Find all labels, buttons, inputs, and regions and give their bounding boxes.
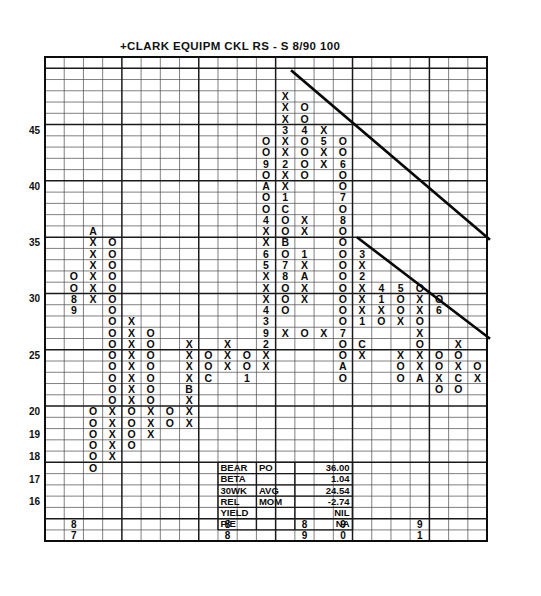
plot-mark-O: O <box>396 293 404 305</box>
plot-mark-O: O <box>300 158 308 170</box>
plot-mark-X: X <box>186 372 193 384</box>
year-digit-bottom: 1 <box>417 530 423 541</box>
plot-mark-X: X <box>128 349 135 361</box>
plot-mark-X: X <box>147 405 154 417</box>
plot-mark-X: X <box>282 169 289 181</box>
plot-mark-O: O <box>204 349 212 361</box>
plot-mark-4: 4 <box>263 304 269 316</box>
y-axis-tick-30: 30 <box>29 293 41 304</box>
plot-mark-X: X <box>109 439 116 451</box>
plot-mark-O: O <box>147 394 155 406</box>
plot-mark-X: X <box>301 214 308 226</box>
plot-mark-X: X <box>128 372 135 384</box>
plot-mark-O: O <box>281 293 289 305</box>
plot-mark-X: X <box>224 360 231 372</box>
plot-mark-X: X <box>282 135 289 147</box>
plot-mark-X: X <box>147 428 154 440</box>
plot-mark-X: X <box>416 304 423 316</box>
plot-mark-O: O <box>262 191 270 203</box>
plot-mark-O: O <box>108 360 116 372</box>
plot-mark-X: X <box>263 236 270 248</box>
y-axis-tick-18: 18 <box>29 451 41 462</box>
plot-mark-O: O <box>300 327 308 339</box>
plot-mark-O: O <box>243 360 251 372</box>
plot-mark-O: O <box>339 270 347 282</box>
plot-mark-6: 6 <box>263 248 269 260</box>
plot-mark-O: O <box>108 349 116 361</box>
plot-mark-O: O <box>473 360 481 372</box>
plot-mark-O: O <box>166 405 174 417</box>
plot-mark-1: 1 <box>244 372 250 384</box>
plot-mark-O: O <box>339 236 347 248</box>
plot-mark-X: X <box>359 282 366 294</box>
y-axis-tick-45: 45 <box>29 125 41 136</box>
plot-mark-O: O <box>300 135 308 147</box>
plot-mark-O: O <box>89 439 97 451</box>
plot-mark-A: A <box>301 270 309 282</box>
plot-mark-X: X <box>128 315 135 327</box>
plot-mark-X: X <box>282 146 289 158</box>
plot-mark-5: 5 <box>263 259 269 271</box>
plot-mark-X: X <box>301 293 308 305</box>
info-mid-mom: MOM <box>259 496 282 507</box>
plot-mark-X: X <box>90 270 97 282</box>
plot-mark-9: 9 <box>71 304 77 316</box>
year-digit-top: 8 <box>71 519 77 530</box>
plot-mark-X: X <box>359 259 366 271</box>
plot-mark-6: 6 <box>436 304 442 316</box>
plot-mark-B: B <box>185 383 193 395</box>
plot-mark-O: O <box>281 304 289 316</box>
plot-mark-A: A <box>339 360 347 372</box>
plot-mark-8: 8 <box>340 214 346 226</box>
plot-mark-O: O <box>127 439 135 451</box>
plot-mark-X: X <box>320 124 327 136</box>
plot-mark-5: 5 <box>321 135 327 147</box>
plot-mark-X: X <box>320 146 327 158</box>
plot-mark-2: 2 <box>359 270 365 282</box>
plot-mark-O: O <box>108 315 116 327</box>
plot-mark-O: O <box>108 293 116 305</box>
plot-mark-O: O <box>108 248 116 260</box>
plot-mark-O: O <box>262 135 270 147</box>
plot-mark-X: X <box>416 349 423 361</box>
plot-mark-X: X <box>224 338 231 350</box>
plot-mark-O: O <box>339 315 347 327</box>
plot-mark-X: X <box>263 360 270 372</box>
plot-mark-O: O <box>108 304 116 316</box>
plot-mark-O: O <box>89 462 97 474</box>
plot-mark-5: 5 <box>398 282 404 294</box>
plot-mark-O: O <box>396 372 404 384</box>
plot-mark-X: X <box>455 338 462 350</box>
y-axis-tick-19: 19 <box>29 429 41 440</box>
plot-mark-O: O <box>262 203 270 215</box>
plot-mark-O: O <box>108 394 116 406</box>
info-label-rel: REL <box>220 496 239 507</box>
plot-mark-O: O <box>89 450 97 462</box>
year-digit-bottom: 8 <box>225 530 231 541</box>
plot-mark-A: A <box>416 372 424 384</box>
plot-mark-X: X <box>282 113 289 125</box>
plot-mark-O: O <box>70 282 78 294</box>
plot-mark-O: O <box>108 259 116 271</box>
plot-mark-X: X <box>436 372 443 384</box>
plot-mark-X: X <box>128 360 135 372</box>
year-digit-top: 8 <box>225 519 231 530</box>
plot-mark-O: O <box>339 203 347 215</box>
plot-mark-X: X <box>282 101 289 113</box>
plot-mark-O: O <box>435 383 443 395</box>
plot-mark-X: X <box>301 282 308 294</box>
plot-mark-9: 9 <box>263 158 269 170</box>
plot-mark-X: X <box>109 417 116 429</box>
plot-mark-X: X <box>263 270 270 282</box>
plot-mark-O: O <box>454 383 462 395</box>
plot-mark-O: O <box>281 225 289 237</box>
plot-mark-6: 6 <box>340 158 346 170</box>
plot-mark-X: X <box>282 90 289 102</box>
plot-mark-X: X <box>186 349 193 361</box>
plot-mark-O: O <box>89 417 97 429</box>
plot-mark-O: O <box>300 101 308 113</box>
plot-mark-O: O <box>339 304 347 316</box>
plot-mark-1: 1 <box>282 191 288 203</box>
plot-mark-O: O <box>454 349 462 361</box>
plot-mark-O: O <box>339 225 347 237</box>
